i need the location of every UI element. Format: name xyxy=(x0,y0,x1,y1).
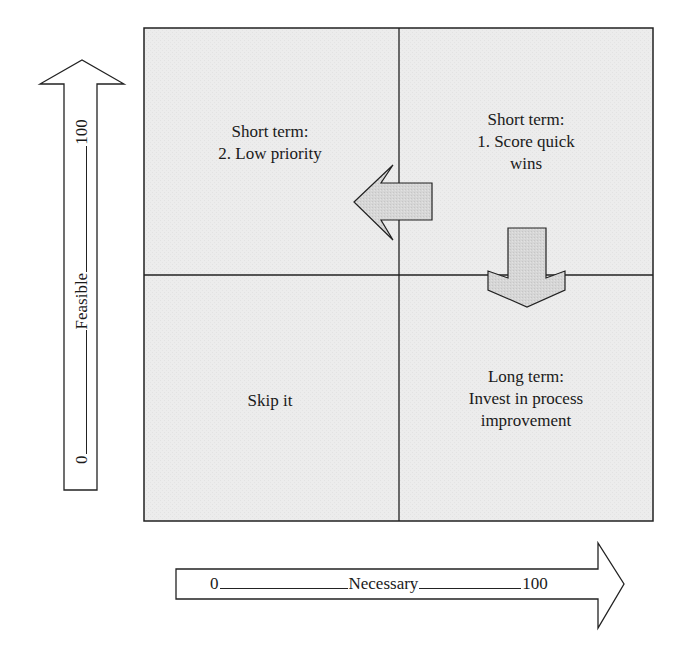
necessary-axis-label: 0Necessary100 xyxy=(210,574,548,594)
quadrant-top-right-label: Short term: 1. Score quick wins xyxy=(436,109,616,175)
quadrant-label-line: Short term: xyxy=(436,109,616,131)
quadrant-bottom-left-label: Skip it xyxy=(180,390,360,412)
necessary-axis-title: Necessary xyxy=(349,574,419,593)
feasible-axis-max: 100 xyxy=(72,119,91,145)
quadrant-label-line: Long term: xyxy=(426,366,626,388)
quadrant-label-line: Short term: xyxy=(180,121,360,143)
quadrant-label-line: 2. Low priority xyxy=(180,143,360,165)
quadrant-label-line: improvement xyxy=(426,410,626,432)
quadrant-label-line: wins xyxy=(436,153,616,175)
necessary-axis-min: 0 xyxy=(210,574,219,593)
matrix-diagram xyxy=(0,0,689,659)
quadrant-label-line: 1. Score quick xyxy=(436,131,616,153)
necessary-axis-max: 100 xyxy=(522,574,548,593)
quadrant-top-left-label: Short term: 2. Low priority xyxy=(180,121,360,165)
quadrant-bottom-right-label: Long term: Invest in process improvement xyxy=(426,366,626,432)
feasible-axis-min: 0 xyxy=(72,456,91,465)
quadrant-label-line: Skip it xyxy=(180,390,360,412)
quadrant-label-line: Invest in process xyxy=(426,388,626,410)
feasible-axis-title: Feasible xyxy=(72,273,91,330)
feasible-axis-label: 0Feasible100 xyxy=(72,84,92,464)
